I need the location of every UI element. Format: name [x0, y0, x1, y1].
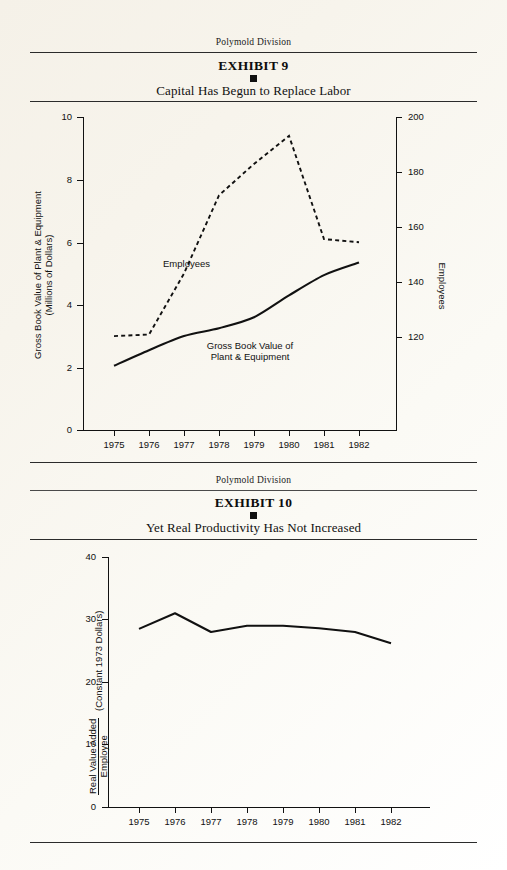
chart2-data-layer [0, 0, 507, 870]
exhibit10-page-rule [30, 842, 477, 843]
exhibit-page: Polymold Division EXHIBIT 9 Capital Has … [0, 0, 507, 870]
chart2-series-real-value-added [139, 613, 391, 643]
exhibit10-chart: 40 30 20 10 0 1975 1976 1977 1978 1979 1… [0, 0, 507, 870]
